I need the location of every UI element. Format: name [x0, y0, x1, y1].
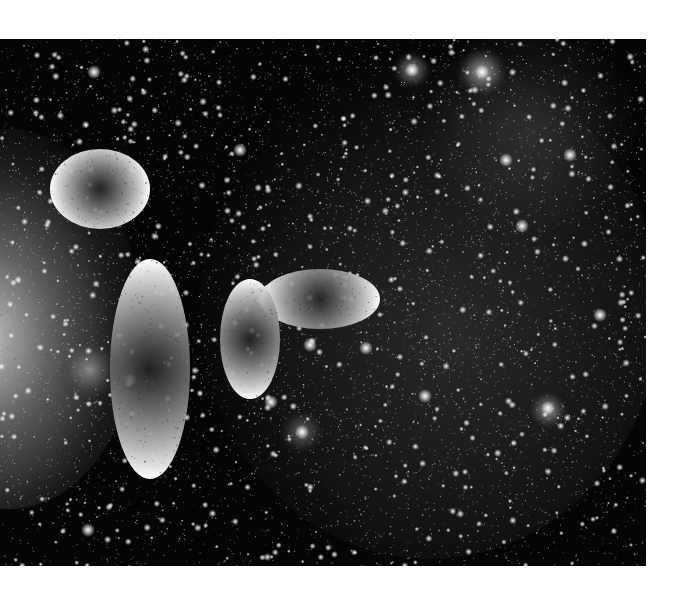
milky-way-photo: [0, 39, 646, 566]
star-field: [0, 39, 646, 566]
